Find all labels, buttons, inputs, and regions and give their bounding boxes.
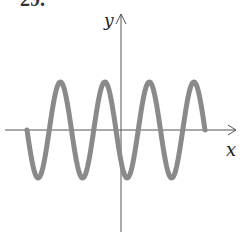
problem-number: 29. xyxy=(20,0,45,10)
x-axis-label: x xyxy=(226,139,236,160)
graph: 29. x y xyxy=(0,0,242,234)
y-axis-label: y xyxy=(103,10,114,30)
